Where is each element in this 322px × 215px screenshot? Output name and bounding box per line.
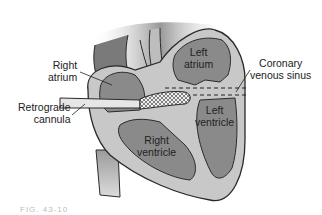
label-right-ventricle: Right ventricle — [137, 134, 176, 158]
label-left-ventricle: Left ventricle — [195, 104, 234, 128]
label-retrograde-cannula: Retrograde cannula — [18, 101, 71, 125]
label-right-atrium: Right atrium — [48, 59, 77, 83]
heart-diagram: Right atrium Retrograde cannula Left atr… — [0, 0, 322, 215]
label-coronary-sinus: Coronary venous sinus — [250, 57, 311, 81]
cannula-tube — [60, 98, 140, 108]
label-left-atrium: Left atrium — [184, 46, 213, 70]
figure-caption: FIG. 43-10 — [20, 205, 68, 215]
